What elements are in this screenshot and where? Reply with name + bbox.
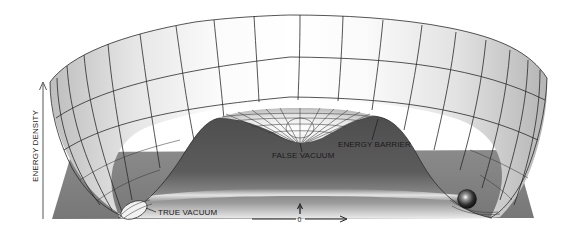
- true-vacuum-label: TRUE VACUUM: [158, 208, 217, 217]
- ball: [458, 190, 477, 209]
- y-axis-label: ENERGY DENSITY: [31, 110, 40, 182]
- energy-barrier-label: ENERGY BARRIER: [338, 140, 411, 149]
- origin-label: 0: [298, 216, 302, 223]
- false-vacuum-label: FALSE VACUUM: [272, 151, 335, 160]
- y-axis: ENERGY DENSITY: [31, 82, 47, 219]
- false-vacuum-diagram: TRUE VACUUM FALSE VACUUM ENERGY BARRIER …: [0, 0, 583, 242]
